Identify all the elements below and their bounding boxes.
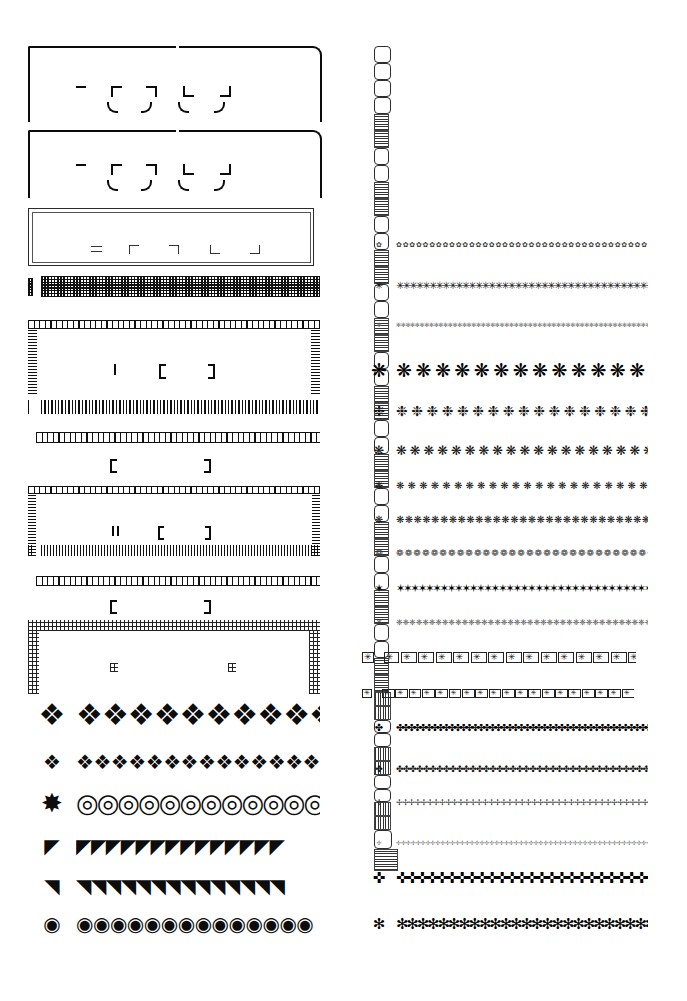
ornament-row-hairline-cross-row: ✢✢✢✢✢✢✢✢✢✢✢✢✢✢✢✢✢✢✢✢✢✢✢✢✢✢✢✢✢✢✢✢✢✢✢✢✢✢✢✢… (362, 836, 662, 850)
ornament-boxed-unit: ✳ (436, 652, 452, 663)
ornament-boxed-unit: ✳ (576, 652, 592, 663)
checker-sample-unit (28, 278, 33, 296)
ornament-boxed-unit: ✳ (611, 652, 627, 663)
specimen-page: ❖ ❖❖❖❖❖❖❖❖❖❖ ❖ ❖❖❖❖❖❖❖❖❖❖❖❖❖❖❖ ✸ ◎◎◎◎◎◎◎… (0, 0, 687, 1001)
tick-corner-br-up (220, 86, 231, 97)
picket-frame2-top-rule (28, 486, 320, 494)
ornament-boxed-unit: ✳ (453, 652, 469, 663)
ornament-sample-glyph: ✻ (362, 322, 396, 328)
ornament-boxed-unit: ✳ (435, 689, 448, 698)
ornament-boxed-unit: ✳ (384, 652, 400, 663)
bracket-left-sample (110, 600, 117, 614)
ornament-boxed-unit: ✳ (628, 652, 635, 663)
ornament-row-hairline-floret: ✻✻✻✻✻✻✻✻✻✻✻✻✻✻✻✻✻✻✻✻✻✻✻✻✻✻✻✻✻✻✻✻✻✻✻✻✻✻✻✻… (362, 318, 662, 332)
bracket-right-sample (204, 600, 211, 614)
inner-bracket-right (208, 364, 215, 379)
ornament-boxed-unit: ✳ (418, 652, 434, 663)
grid-frame-left-rule (28, 631, 39, 694)
ornament-row-medium-snowflake: ❉❉❉❉❉❉❉❉❉❉❉❉❉❉❉❉❉❉ (362, 400, 662, 422)
ornament-strip: ❋❋❋❋❋❋❋❋❋❋❋❋❋❋❋❋❋❋❋❋❋❋ (396, 481, 648, 491)
left-column: ❖ ❖❖❖❖❖❖❖❖❖❖ ❖ ❖❖❖❖❖❖❖❖❖❖❖❖❖❖❖ ✸ ◎◎◎◎◎◎◎… (28, 0, 320, 1001)
ornament-sample-glyph: ❖ (28, 752, 76, 772)
ornament-sample-glyph: ❋ (362, 361, 396, 380)
ornament-sample-glyph: ◥ (28, 876, 76, 896)
ornament-strip: ✢✢✢✢✢✢✢✢✢✢✢✢✢✢✢✢✢✢✢✢✢✢✢✢✢✢✢✢✢✢✢✢✢✢✢✢✢✢✢✢… (396, 799, 648, 807)
ornament-boxed-unit: ✳ (506, 652, 522, 663)
bracket-right-sample (204, 459, 211, 473)
ornament-sample-glyph: ❈ (362, 619, 396, 627)
tick-corner-tl (111, 86, 122, 97)
ornament-row-petite-floret: ❁❁❁❁❁❁❁❁❁❁❁❁❁❁❁❁❁❁❁❁❁❁❁❁❁❁❁❁❁❁❁ (362, 546, 662, 560)
ornament-sample-glyph: ❋ (362, 515, 396, 525)
inner-bracket-right (205, 526, 211, 540)
picket-rule2-sample-unit (28, 545, 32, 556)
ornament-row-boxed-asterisk: ✳✳✳✳✳✳✳✳✳✳✳✳✳✳✳✳✳✳✳✳✳✳✳ (362, 650, 662, 664)
specimen-bold-ring-chain: ✸ ◎◎◎◎◎◎◎◎◎◎◎◎◎ (28, 790, 320, 816)
ornament-strip: ❁❁❁❁❁❁❁❁❁❁❁❁❁❁❁❁❁❁❁❁❁❁❁❁❁❁❁❁❁❁ (396, 549, 648, 558)
ornament-sample-glyph: ✳ (362, 281, 396, 291)
inner-bracket-left (158, 526, 164, 540)
picket-rule-strip (41, 400, 320, 414)
bracket-top-left (28, 46, 176, 122)
mesh-block-sample-right (228, 663, 236, 672)
ornament-boxed-unit: ✳ (475, 689, 488, 698)
ornament-strip: ✶✶✶✶✶✶✶✶✶✶✶✶✶✶✶✶✶✶✶✶✶✶✶✶✶✶✶✶✶✶✶✶✶✶✶ (396, 583, 648, 594)
ornament-row-six-point-asterisk: ✳✳✳✳✳✳✳✳✳✳✳✳✳✳✳✳✳✳✳✳✳✳✳✳✳✳✳✳✳✳✳✳✳✳✳✳✳✳✳✳… (362, 278, 662, 294)
sample-corner-tr (169, 245, 179, 254)
ornament-row-tiny-flower-ring: ✿✿✿✿✿✿✿✿✿✿✿✿✿✿✿✿✿✿✿✿✿✿✿✿✿✿✿✿✿✿✿✿✿✿✿✿✿✿✿✿… (362, 238, 662, 252)
ornament-row-star-asterisk-row: ✻✻✻✻✻✻✻✻✻✻✻✻✻✻✻✻✻✻✻✻✻✻✻✻✻✻ (362, 912, 662, 936)
specimen-corner-bracket-frame-2 (28, 130, 320, 196)
ornament-boxed-unit: ✳ (595, 689, 608, 698)
ornament-row-cross-cluster-double: ✤✤✤✤✤✤✤✤✤✤✤✤✤✤✤✤✤✤✤✤✤✤✤✤✤✤✤✤✤✤✤✤✤✤✤✤✤✤✤✤… (362, 720, 662, 736)
ornament-boxed-unit: ✳ (622, 689, 634, 698)
sample-corner-tl (129, 245, 139, 254)
ornament-row-open-cross-row: ✢✢✢✢✢✢✢✢✢✢✢✢✢✢✢✢✢✢✢✢✢✢✢✢✢✢✢✢✢✢✢✢✢✢✢✢✢✢✢✢… (362, 796, 662, 810)
picket-frame-right-rule (311, 329, 320, 394)
ornament-boxed-unit: ✳ (568, 689, 581, 698)
ornament-boxed-unit: ✳ (608, 689, 621, 698)
ornament-sample-glyph: ✳ (362, 652, 374, 663)
ornament-strip: ❖❖❖❖❖❖❖❖❖❖❖❖❖❖❖ (76, 752, 320, 772)
ornament-boxed-unit: ✳ (558, 652, 574, 663)
tick-corner-bl-up (183, 86, 194, 97)
ornament-strip: ✻✻✻✻✻✻✻✻✻✻✻✻✻✻✻✻✻✻✻✻✻✻✻✻✻ (396, 917, 648, 932)
specimen-grid-frame (28, 620, 320, 694)
ornament-strip: ✳✳✳✳✳✳✳✳✳✳✳✳✳✳✳✳✳✳✳✳✳✳✳✳✳✳✳✳✳✳✳✳✳✳✳✳✳✳✳✳… (396, 281, 648, 291)
ornament-boxed-unit: ✳ (593, 652, 609, 663)
ornament-strip: ✻✻✻✻✻✻✻✻✻✻✻✻✻✻✻✻✻✻✻✻✻✻✻✻✻✻✻✻✻✻✻✻✻✻✻✻✻✻✻✻… (396, 322, 648, 328)
ornament-strip: ✳✳✳✳✳✳✳✳✳✳✳✳✳✳✳✳✳✳✳✳✳✳✳✳✳✳✳✳✳✳ (382, 689, 634, 698)
tick-dash (76, 164, 86, 166)
ornament-sample-glyph: ❁ (362, 549, 396, 558)
ornament-strip: ✳✳✳✳✳✳✳✳✳✳✳✳✳✳✳✳✳✳✳✳✳✳ (384, 652, 636, 663)
inner-bar-sample (114, 364, 116, 375)
ornament-boxed-unit: ✳ (502, 689, 515, 698)
ornament-strip: ❈❈❈❈❈❈❈❈❈❈❈❈❈❈❈❈❈❈❈❈❈❈❈❈❈❈❈❈❈❈❈❈❈❈❈❈❈❈❈❈ (396, 619, 648, 627)
ornament-strip: ✤✤✤✤✤✤✤✤✤✤✤✤✤✤✤✤✤✤✤✤✤✤✤✤✤✤✤✤✤✤✤✤✤✤✤✤✤✤✤ (396, 765, 648, 774)
picket-frame-top-rule (28, 320, 320, 329)
ornament-sample-glyph: ✢ (362, 840, 396, 846)
ornament-sample-glyph: ◤ (28, 836, 76, 856)
ornament-row-snowflake-flower: ❋❋❋❋❋❋❋❋❋❋❋❋❋❋❋❋❋❋❋❋ (362, 440, 662, 461)
tick-dash (76, 86, 86, 88)
ornament-strip: ◉◉◉◉◉◉◉◉◉◉◉◉◉◉ (76, 914, 320, 934)
ornament-strip: ✤✤✤✤✤✤✤✤✤✤✤✤✤✤✤✤✤✤✤✤✤✤✤✤✤✤✤✤✤✤✤✤✤✤✤✤✤✤✤✤… (396, 724, 648, 733)
ornament-boxed-unit: ✳ (541, 652, 557, 663)
ornament-boxed-unit: ✳ (382, 689, 395, 698)
ornament-row-fine-snow-row: ❈❈❈❈❈❈❈❈❈❈❈❈❈❈❈❈❈❈❈❈❈❈❈❈❈❈❈❈❈❈❈❈❈❈❈❈❈❈❈❈… (362, 616, 662, 630)
ornament-boxed-unit: ✳ (409, 689, 422, 698)
ornament-strip: ✢✢✢✢✢✢✢✢✢✢✢✢✢✢✢✢✢✢✢✢✢✢✢✢✢✢✢✢✢✢✢✢✢✢✢✢✢✢✢✢… (396, 840, 648, 846)
ornament-sample-glyph: ✤ (362, 723, 396, 733)
ornament-sample-glyph: ✤ (362, 765, 396, 774)
ornament-boxed-unit: ✳ (449, 689, 462, 698)
checker-rule-strip (41, 276, 320, 297)
ornament-sample-glyph: ❋ (362, 444, 396, 457)
specimen-quadrant-strip: ◥ ◥◥◥◥◥◥◥◥◥◥◥◥◥◥ (28, 876, 320, 896)
ornament-boxed-unit: ✳ (462, 689, 475, 698)
ornament-strip: ❉❉❉❉❉❉❉❉❉❉❉❉❉❉❉❉❉ (396, 404, 648, 418)
ornament-row-maltese-cross-row: ✜✜✜✜✜✜✜✜✜✜✜✜✜✜✜✜✜✜✜✜✜✜✜✜✜✜✜ (362, 866, 662, 890)
ornament-row-dense-floret: ❋❋❋❋❋❋❋❋❋❋❋❋❋❋❋❋❋❋❋❋❋❋❋❋❋❋❋❋❋❋ (362, 512, 662, 528)
ornament-boxed-unit: ✳ (542, 689, 555, 698)
specimen-scroll-corner-strip: ◤ ◤◤◤◤◤◤◤◤◤◤◤◤◤◤ (28, 836, 320, 856)
tick-corner-bl-up (183, 164, 194, 175)
ornament-boxed-unit: ✳ (489, 689, 502, 698)
